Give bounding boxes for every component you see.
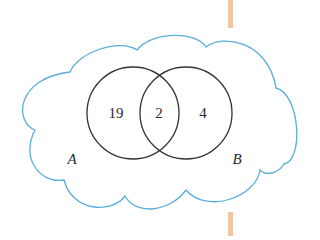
set-a-label: A bbox=[67, 152, 76, 167]
universe-cloud-outline bbox=[23, 35, 297, 209]
region-only-b-count: 4 bbox=[199, 106, 207, 121]
set-a-circle bbox=[87, 67, 179, 159]
region-only-a-count: 19 bbox=[109, 106, 124, 121]
set-b-circle bbox=[140, 67, 232, 159]
set-b-label: B bbox=[232, 152, 241, 167]
region-intersection-count: 2 bbox=[155, 106, 163, 121]
